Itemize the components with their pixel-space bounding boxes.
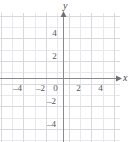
y-tick-label: –4 <box>45 120 58 129</box>
coordinate-grid-svg <box>0 0 131 142</box>
x-axis-name: x <box>123 73 127 83</box>
y-tick-label: –2 <box>45 97 58 106</box>
x-tick-label: –2 <box>35 84 46 93</box>
y-axis-arrow-icon <box>61 11 67 17</box>
x-tick-label: –4 <box>12 84 23 93</box>
y-axis-name: y <box>63 1 67 11</box>
coordinate-plane-figure: –4 –2 0 2 4 4 2 –2 –4 x y <box>0 0 131 142</box>
y-tick-label: 4 <box>51 29 58 38</box>
y-tick-label: 2 <box>51 52 58 61</box>
x-tick-label: 2 <box>75 84 82 93</box>
x-axis-arrow-icon <box>116 76 122 82</box>
x-tick-label-origin: 0 <box>52 84 59 93</box>
y-axis <box>61 11 67 142</box>
x-axis <box>0 76 122 82</box>
x-tick-label: 4 <box>97 84 104 93</box>
